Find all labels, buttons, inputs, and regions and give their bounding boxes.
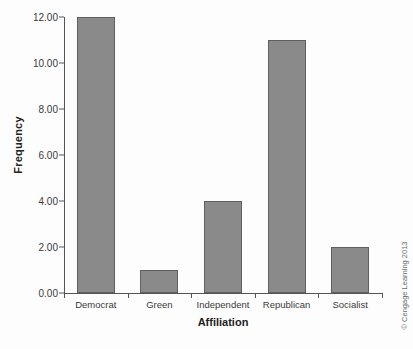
bar-slot (318, 17, 382, 293)
bar-chart-figure: Frequency 0.002.004.006.008.0010.0012.00… (0, 0, 413, 349)
x-axis-tick-mark (382, 293, 383, 298)
bar-slot (128, 17, 192, 293)
bar-slot (191, 17, 255, 293)
y-axis-tick-label: 12.00 (22, 12, 58, 23)
x-axis-category-label: Democrat (64, 299, 128, 310)
bar[interactable] (331, 247, 369, 293)
bar[interactable] (140, 270, 178, 293)
x-axis-tick-mark (318, 293, 319, 298)
bar[interactable] (204, 201, 242, 293)
bar[interactable] (268, 40, 306, 293)
x-axis-tick-mark (255, 293, 256, 298)
x-axis-tick-mark (128, 293, 129, 298)
y-axis-tick-label: 2.00 (22, 242, 58, 253)
x-axis-category-label: Republican (255, 299, 319, 310)
y-axis-tick-group: 0.002.004.006.008.0010.0012.00 (22, 0, 58, 349)
x-axis-category-label: Socialist (318, 299, 382, 310)
bar-slot (255, 17, 319, 293)
x-axis-tick-mark (191, 293, 192, 298)
attribution-text: © Cengage Learning 2013 (400, 241, 409, 329)
y-axis-tick-label: 10.00 (22, 58, 58, 69)
bar-group (64, 17, 382, 293)
x-axis-tick-labels: DemocratGreenIndependentRepublicanSocial… (64, 299, 382, 310)
bar[interactable] (77, 17, 115, 293)
y-axis-tick-label: 0.00 (22, 288, 58, 299)
attribution-notice: © Cengage Learning 2013 (397, 230, 411, 340)
x-axis-category-label: Independent (191, 299, 255, 310)
x-axis-tick-mark (64, 293, 65, 298)
y-axis-tick-label: 6.00 (22, 150, 58, 161)
y-axis-tick-label: 8.00 (22, 104, 58, 115)
y-axis-tick-label: 4.00 (22, 196, 58, 207)
bar-slot (64, 17, 128, 293)
plot-area (64, 17, 382, 293)
x-axis-category-label: Green (128, 299, 192, 310)
x-axis-title: Affiliation (64, 316, 382, 328)
